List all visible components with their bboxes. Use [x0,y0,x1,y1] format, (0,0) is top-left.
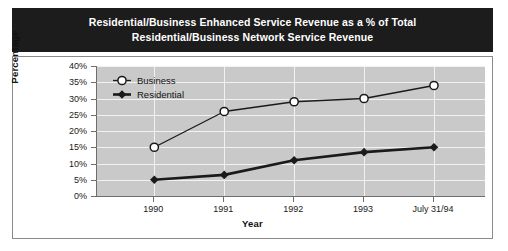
legend-marker-filled-diamond [111,88,135,101]
y-axis-title: Percentage [9,0,20,117]
x-axis-title: Year [13,218,492,229]
data-point-marker [118,76,126,84]
x-axis-tick-label: July 31/94 [412,204,453,214]
y-axis-tick-label: 40% [47,61,87,71]
x-axis-tick-label: 1991 [213,204,233,214]
data-point-marker [290,98,298,106]
chart-frame: Percentage 0%5%10%15%20%25%30%35%40% Bus… [12,56,493,239]
data-point-marker [360,94,368,102]
series-residential [150,143,438,184]
x-axis-tick-mark [293,197,294,202]
series-line [154,86,434,148]
data-point-marker [290,156,299,165]
x-axis-tick-mark [433,197,434,202]
series-business [150,81,438,151]
x-axis-tick-label: 1992 [283,204,303,214]
chart-title-line-1: Residential/Business Enhanced Service Re… [89,15,416,30]
chart-screenshot: Residential/Business Enhanced Service Re… [0,0,508,251]
chart-legend: BusinessResidential [111,74,184,102]
y-axis-tick-label: 10% [47,159,87,169]
data-point-marker [360,148,369,157]
x-axis-tick-label: 1993 [353,204,373,214]
legend-item-residential: Residential [111,88,184,101]
y-axis-tick-label: 20% [47,126,87,136]
data-point-marker [220,171,229,180]
legend-label: Residential [137,89,184,100]
legend-label: Business [137,75,176,86]
data-point-marker [118,90,127,99]
plot-area: BusinessResidential [96,66,485,197]
y-axis-tick-label: 5% [47,175,87,185]
y-axis-tick-label: 25% [47,110,87,120]
chart-title-line-2: Residential/Business Network Service Rev… [132,30,373,45]
legend-marker-open-circle [111,74,135,87]
data-point-marker [150,175,159,184]
x-axis-tick-mark [223,197,224,202]
chart-title-banner: Residential/Business Enhanced Service Re… [12,8,493,52]
y-axis-tick-label: 0% [47,191,87,201]
y-axis-tick-label: 30% [47,94,87,104]
legend-item-business: Business [111,74,184,87]
data-point-marker [430,81,438,89]
data-point-marker [430,143,439,152]
y-axis-tick-label: 35% [47,77,87,87]
data-point-marker [150,143,158,151]
data-point-marker [220,107,228,115]
x-axis-tick-label: 1990 [143,204,163,214]
y-axis-tick-label: 15% [47,142,87,152]
x-axis-tick-mark [153,197,154,202]
x-axis-tick-mark [363,197,364,202]
